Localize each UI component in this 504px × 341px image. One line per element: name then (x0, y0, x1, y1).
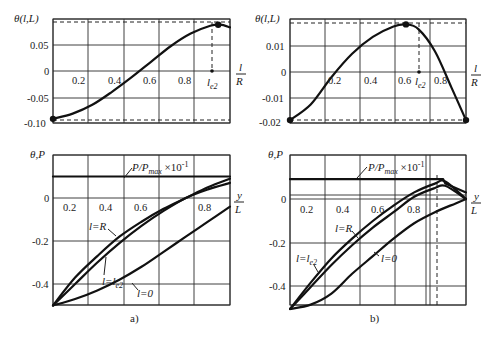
x-axis-label-den: L (234, 203, 241, 215)
plot-a-bottom-labels: θ,P 0 -0.2 -0.4 0.2 0.4 0.6 0.8 y L P/Pm… (30, 148, 244, 325)
y-tick: -0.2 (269, 238, 286, 249)
curve-label-le2: l=le2 (296, 252, 317, 267)
y-tick: -0.01 (262, 93, 284, 104)
x-axis-label-num: l (239, 61, 242, 73)
x-tick: 0.4 (336, 204, 350, 215)
panel-caption-a: a) (130, 312, 139, 325)
curve-label-le2: l=le2 (102, 275, 123, 290)
y-tick: -0.02 (259, 117, 281, 128)
curve-label-lR: l=R (335, 222, 352, 234)
label-layer: θ(l,L) 0.05 0 -0.05 -0.10 0.2 0.4 0.6 0.… (0, 0, 504, 341)
x-axis-label-den: R (470, 76, 478, 88)
leader-line (357, 167, 367, 178)
x-tick: 0.8 (407, 204, 420, 215)
y-tick: 0.01 (266, 41, 284, 52)
y-tick: -0.05 (27, 93, 49, 104)
x-tick: 0.6 (134, 202, 147, 213)
x-axis-label-num: y (473, 190, 479, 202)
y-tick: 0 (44, 66, 49, 77)
y-tick: -0.2 (32, 236, 49, 247)
curve-label-l0: l=0 (381, 252, 397, 264)
leader-line (352, 231, 358, 238)
x-tick: 0.2 (72, 75, 85, 86)
leader-line (108, 229, 116, 236)
curve-label-lR: l=R (89, 220, 106, 232)
leader-line (374, 252, 379, 256)
x-axis-label-num: y (236, 189, 242, 201)
y-tick: 0 (44, 193, 49, 204)
y-tick: 0.05 (30, 40, 48, 51)
x-axis-label-den: R (235, 75, 243, 87)
legend-p-label: P/Pmax ×10-1 (131, 160, 188, 176)
y-tick: -0.4 (269, 281, 286, 292)
legend-p-label: P/Pmax ×10-1 (367, 160, 424, 176)
x-tick: 0.2 (63, 202, 76, 213)
panel-caption-b: b) (370, 312, 380, 325)
plot-b-bottom-labels: θ,P 0 -0.2 -0.4 0.2 0.4 0.6 0.8 y L P/Pm… (268, 148, 481, 325)
x-tick: 0.4 (364, 75, 378, 86)
x-axis-label-num: l (474, 62, 477, 74)
plot-a-top-labels: θ(l,L) 0.05 0 -0.05 -0.10 0.2 0.4 0.6 0.… (14, 12, 246, 129)
curve-label-l0: l=0 (137, 287, 153, 299)
x-tick: 0.6 (143, 75, 156, 86)
y-axis-label: θ(l,L) (255, 12, 280, 25)
y-axis-label: θ(l,L) (14, 12, 39, 25)
x-tick: 0.8 (178, 75, 191, 86)
x-tick: 0.8 (198, 202, 211, 213)
x-tick: 0.4 (108, 75, 122, 86)
annotation-le2: le2 (207, 76, 218, 91)
x-tick: 0.6 (371, 204, 384, 215)
y-axis-label: θ,P (268, 148, 283, 160)
x-tick: 0.6 (398, 75, 411, 86)
plot-b-top-labels: θ(l,L) 0.01 0 -0.01 -0.02 0.2 0.4 0.6 0.… (255, 12, 481, 128)
leader-line (124, 168, 132, 178)
y-axis-label: θ,P (30, 148, 45, 160)
y-tick: 0 (281, 194, 286, 205)
y-tick: -0.10 (24, 118, 46, 129)
annotation-le2: le2 (415, 75, 426, 90)
y-tick: 0 (281, 67, 286, 78)
x-tick: 0.8 (434, 75, 447, 86)
x-tick: 0.2 (328, 75, 341, 86)
x-tick: 0.2 (300, 204, 313, 215)
y-tick: -0.4 (32, 279, 49, 290)
x-tick: 0.4 (99, 202, 113, 213)
leader-line (104, 257, 106, 275)
x-axis-label-den: L (470, 204, 477, 216)
